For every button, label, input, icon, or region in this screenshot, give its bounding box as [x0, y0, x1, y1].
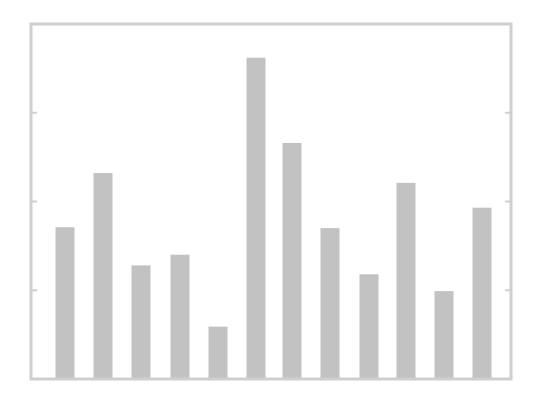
bar-4: [171, 255, 190, 379]
bar-7: [283, 143, 302, 379]
bar-9: [360, 274, 379, 379]
bar-chart: [0, 0, 540, 400]
bar-6: [247, 58, 266, 379]
bar-11: [435, 291, 454, 379]
bar-2: [94, 173, 113, 379]
bar-5: [209, 327, 228, 379]
bar-10: [397, 183, 416, 379]
bar-1: [56, 227, 75, 379]
bar-12: [473, 208, 492, 379]
plot-background: [0, 0, 540, 400]
bar-3: [132, 265, 151, 379]
bar-8: [321, 228, 340, 379]
